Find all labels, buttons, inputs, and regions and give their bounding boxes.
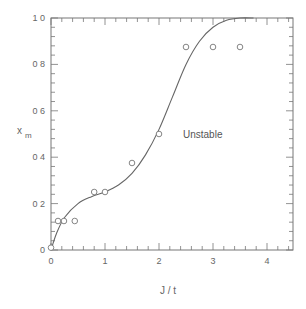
chart: 0123400 20 40 60 81 0 Unstable J / t x m [0, 0, 306, 309]
data-point [61, 218, 67, 224]
data-point [102, 189, 108, 195]
x-tick-label: 0 [48, 256, 53, 266]
y-tick-label: 1 0 [32, 13, 45, 23]
axis-ticks [51, 18, 293, 250]
data-point [129, 160, 135, 166]
x-tick-label: 2 [156, 256, 161, 266]
x-axis-title: J / t [160, 285, 176, 296]
data-point [237, 44, 243, 50]
fit-curve [51, 18, 254, 250]
data-point [156, 131, 162, 137]
data-point [210, 44, 216, 50]
y-axis-title: x m [17, 125, 32, 140]
data-point [91, 189, 97, 195]
y-tick-label: 0 6 [32, 106, 45, 116]
data-point [48, 245, 54, 251]
svg-text:m: m [25, 131, 32, 140]
y-tick-label: 0 2 [32, 199, 45, 209]
y-tick-label: 0 8 [32, 59, 45, 69]
x-tick-label: 1 [102, 256, 107, 266]
x-tick-label: 4 [264, 256, 269, 266]
data-points [48, 44, 243, 250]
plot-frame [51, 18, 293, 250]
y-tick-label: 0 4 [32, 152, 45, 162]
tick-labels: 0123400 20 40 60 81 0 [32, 13, 269, 266]
data-point [183, 44, 189, 50]
data-point [55, 218, 61, 224]
x-tick-label: 3 [210, 256, 215, 266]
unstable-annotation: Unstable [183, 129, 223, 140]
y-tick-label: 0 [40, 245, 45, 255]
data-point [72, 218, 78, 224]
svg-text:x: x [17, 125, 22, 136]
